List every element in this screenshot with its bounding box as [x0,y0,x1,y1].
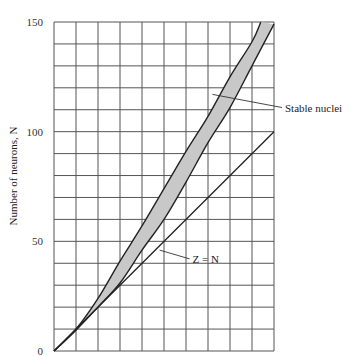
y-tick-label: 150 [27,16,44,28]
y-tick-label: 50 [32,235,44,247]
y-tick-labels: 050100150 [27,16,44,356]
z-equals-n-label: Z = N [193,253,219,265]
y-tick-label: 100 [27,126,44,138]
y-tick-label: 0 [38,345,44,356]
chart: 050100150 Stable nuclei Z = N Number of … [0,0,351,356]
stable-nuclei-label: Stable nuclei [285,102,342,114]
y-axis-label: Number of neurons, N [7,126,19,225]
